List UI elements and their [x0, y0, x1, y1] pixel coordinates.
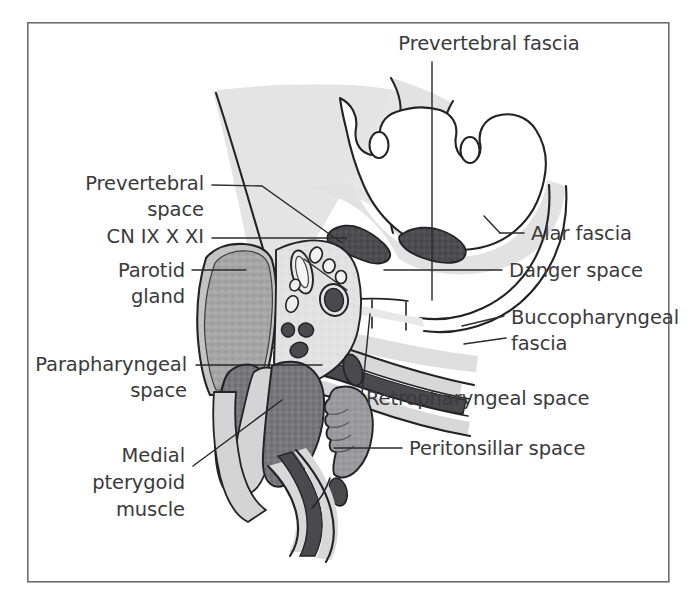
- label-parapharyngeal-space-line1: Parapharyngeal: [35, 353, 187, 376]
- label-medial-pterygoid-line1: Medial: [122, 444, 185, 467]
- label-cn-ix-x-xi: CN IX X XI: [107, 225, 204, 248]
- label-prevertebral-space-line2: space: [147, 198, 204, 221]
- label-peritonsillar-space: Peritonsillar space: [409, 437, 585, 460]
- anatomy-diagram-canvas: Prevertebral fascia Prevertebral space C…: [0, 0, 690, 604]
- label-buccopharyngeal-fascia-line2: fascia: [511, 332, 567, 355]
- label-medial-pterygoid-line3: muscle: [116, 498, 185, 521]
- label-parotid-gland-line1: Parotid: [118, 259, 185, 282]
- label-alar-fascia: Alar fascia: [531, 222, 632, 245]
- label-parotid-gland-line2: gland: [131, 285, 185, 308]
- label-retropharyngeal-space: Retropharyngeal space: [366, 387, 589, 410]
- label-parapharyngeal-space-line2: space: [130, 379, 187, 402]
- label-prevertebral-fascia: Prevertebral fascia: [398, 32, 579, 55]
- transverse-foramen-right: [461, 137, 480, 163]
- cn-xi-nerve-icon: [336, 271, 347, 284]
- transverse-foramen-left: [370, 132, 389, 158]
- label-medial-pterygoid-line2: pterygoid: [92, 471, 185, 494]
- label-danger-space: Danger space: [509, 259, 643, 282]
- leader-buccopharyngeal-fascia-2: [464, 338, 506, 344]
- label-buccopharyngeal-fascia-line1: Buccopharyngeal: [511, 306, 679, 329]
- label-prevertebral-space-line1: Prevertebral: [85, 172, 204, 195]
- anatomy-figure: Prevertebral fascia Prevertebral space C…: [0, 0, 690, 604]
